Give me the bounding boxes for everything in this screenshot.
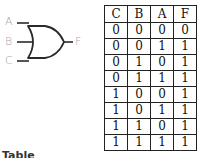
cell: 0 bbox=[105, 39, 128, 55]
cell: 0 bbox=[128, 39, 151, 55]
header-a: A bbox=[151, 6, 174, 23]
cell: 1 bbox=[174, 135, 197, 151]
cell: 1 bbox=[105, 135, 128, 151]
cell: 0 bbox=[151, 55, 174, 71]
output-label-f: F bbox=[75, 36, 81, 47]
table-row: 1 1 0 1 bbox=[105, 119, 197, 135]
cell: 1 bbox=[151, 39, 174, 55]
cell: 1 bbox=[151, 71, 174, 87]
cell: 1 bbox=[174, 87, 197, 103]
input-label-a: A bbox=[5, 16, 13, 27]
table-caption: Table bbox=[2, 150, 35, 158]
table-header-row: C B A F bbox=[105, 6, 197, 23]
table-row: 1 1 1 1 bbox=[105, 135, 197, 151]
cell: 0 bbox=[151, 23, 174, 39]
cell: 1 bbox=[174, 119, 197, 135]
cell: 0 bbox=[128, 87, 151, 103]
table-row: 1 0 0 1 bbox=[105, 87, 197, 103]
cell: 1 bbox=[174, 103, 197, 119]
cell: 1 bbox=[105, 119, 128, 135]
cell: 0 bbox=[105, 23, 128, 39]
cell: 0 bbox=[105, 55, 128, 71]
cell: 1 bbox=[174, 39, 197, 55]
cell: 1 bbox=[174, 71, 197, 87]
cell: 1 bbox=[105, 103, 128, 119]
cell: 1 bbox=[105, 87, 128, 103]
input-label-c: C bbox=[5, 55, 13, 66]
cell: 1 bbox=[128, 119, 151, 135]
cell: 1 bbox=[128, 71, 151, 87]
cell: 0 bbox=[105, 71, 128, 87]
table-row: 0 1 1 1 bbox=[105, 71, 197, 87]
cell: 0 bbox=[128, 103, 151, 119]
cell: 0 bbox=[174, 23, 197, 39]
table-row: 0 0 0 0 bbox=[105, 23, 197, 39]
table-row: 0 0 1 1 bbox=[105, 39, 197, 55]
cell: 1 bbox=[151, 135, 174, 151]
cell: 1 bbox=[174, 55, 197, 71]
cell: 0 bbox=[151, 119, 174, 135]
cell: 1 bbox=[128, 135, 151, 151]
cell: 0 bbox=[128, 23, 151, 39]
table-row: 0 1 0 1 bbox=[105, 55, 197, 71]
table-row: 1 0 1 1 bbox=[105, 103, 197, 119]
header-c: C bbox=[105, 6, 128, 23]
cell: 0 bbox=[151, 87, 174, 103]
or-gate-diagram: A B C F bbox=[0, 0, 100, 80]
or-gate-icon bbox=[0, 0, 100, 80]
header-f: F bbox=[174, 6, 197, 23]
cell: 1 bbox=[128, 55, 151, 71]
gate-body bbox=[28, 26, 64, 58]
cell: 1 bbox=[151, 103, 174, 119]
truth-table: C B A F 0 0 0 0 0 0 1 1 0 1 0 1 0 1 1 1 bbox=[104, 5, 197, 151]
header-b: B bbox=[128, 6, 151, 23]
input-label-b: B bbox=[5, 36, 12, 47]
